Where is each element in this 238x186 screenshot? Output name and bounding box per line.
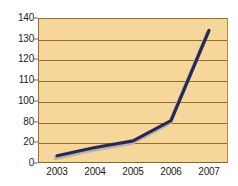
x-axis: 20032004200520062007: [38, 166, 228, 182]
line-chart-figure: 14013012011010080200 2003200420052006200…: [0, 0, 238, 186]
y-axis: 14013012011010080200: [0, 0, 38, 186]
series-line-shadow: [56, 33, 208, 158]
x-axis-tick-label: 2004: [84, 166, 105, 178]
x-axis-tick-label: 2007: [198, 166, 219, 178]
y-axis-tick-label: 20: [23, 137, 34, 147]
series-line: [57, 30, 209, 155]
series-layer: [38, 18, 228, 163]
y-axis-tick-label: 120: [18, 54, 34, 64]
y-axis-tick-label: 110: [19, 75, 34, 85]
y-axis-tick-label: 130: [18, 34, 34, 44]
x-axis-tick-label: 2005: [122, 166, 143, 178]
x-axis-tick-label: 2006: [160, 166, 181, 178]
y-axis-tick-label: 140: [18, 13, 34, 23]
y-axis-tick-label: 100: [18, 96, 34, 106]
x-axis-tick-label: 2003: [46, 166, 67, 178]
y-axis-tick-label: 80: [23, 117, 34, 127]
